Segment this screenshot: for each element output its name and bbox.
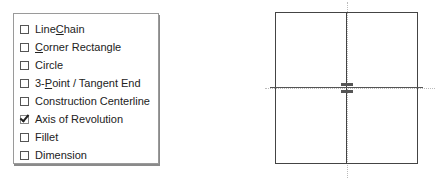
checkbox-icon[interactable] (20, 79, 29, 88)
label-post: hain (64, 23, 85, 35)
menu-item-circle[interactable]: Circle (20, 57, 63, 73)
label-mnemonic: P (45, 77, 52, 89)
menu-item-axis-of-revolution[interactable]: Axis of Revolution (20, 111, 123, 127)
label-mnemonic: C (56, 23, 64, 35)
menu-item-3-point-tangent-end[interactable]: 3-Point / Tangent End (20, 75, 141, 91)
axis-of-revolution-line (346, 12, 347, 164)
menu-item-dimension[interactable]: Dimension (20, 147, 87, 163)
label: Construction Centerline (35, 95, 150, 107)
checkbox-icon[interactable] (20, 133, 29, 142)
label-post: oint / Tangent End (52, 77, 140, 89)
axis-marker-icon (341, 90, 353, 93)
menu-item-corner-rectangle[interactable]: Corner Rectangle (20, 39, 121, 55)
label: Dimension (35, 149, 87, 161)
sketch-tools-menu: Line Chain Corner Rectangle Circle 3-Poi… (13, 13, 159, 164)
label: Fillet (35, 131, 58, 143)
checkbox-icon[interactable] (20, 43, 29, 52)
checkbox-icon[interactable] (20, 61, 29, 70)
menu-item-construction-centerline[interactable]: Construction Centerline (20, 93, 150, 109)
checkbox-icon[interactable] (20, 25, 29, 34)
construction-line (270, 87, 423, 88)
label-pre: 3- (35, 77, 45, 89)
label: Circle (35, 59, 63, 71)
checkmark-icon[interactable] (20, 115, 29, 124)
checkbox-icon[interactable] (20, 97, 29, 106)
label-mnemonic: C (35, 41, 43, 53)
label-pre: Line (35, 23, 56, 35)
menu-item-line-chain[interactable]: Line Chain (20, 21, 85, 37)
label-post: orner Rectangle (43, 41, 121, 53)
checkbox-icon[interactable] (20, 151, 29, 160)
menu-item-fillet[interactable]: Fillet (20, 129, 58, 145)
axis-marker-icon (341, 83, 353, 86)
label: Axis of Revolution (35, 113, 123, 125)
